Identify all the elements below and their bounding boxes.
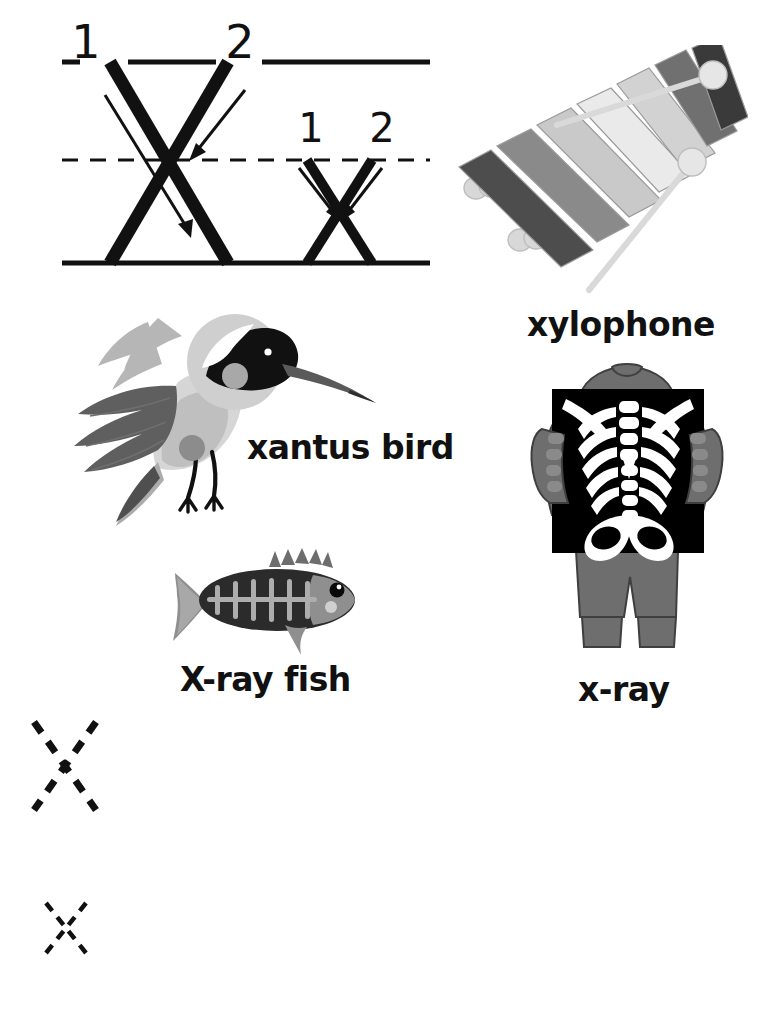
practice-row-1[interactable] — [16, 722, 752, 810]
fish-spine — [207, 597, 317, 602]
practice-row-2[interactable] — [16, 863, 752, 953]
letter-x-stroke-order-guide: 1 2 1 2 — [0, 0, 440, 290]
row-1-traceable-letter-X — [34, 722, 96, 810]
x-ray-illustration — [520, 355, 735, 660]
bird-leg-joint — [179, 435, 205, 461]
guide-uppercase-stroke-1-number: 1 — [71, 15, 100, 69]
picture-label-xylophone: xylophone — [527, 305, 715, 344]
worksheet-page: 1 2 1 2 — [0, 0, 761, 1022]
xantus-bird-illustration — [30, 290, 420, 540]
guide-lowercase-x-glyph — [307, 160, 372, 263]
bird-beak-tip — [348, 390, 376, 403]
child-leg-left — [582, 617, 622, 647]
fish-lower-fin — [285, 625, 307, 655]
guide-uppercase-stroke-2-number: 2 — [225, 15, 254, 69]
handwriting-practice-area — [0, 700, 761, 990]
guide-lowercase-stroke-1-number: 1 — [298, 105, 323, 151]
bird-eye — [264, 348, 271, 355]
x-ray-fish-illustration — [165, 545, 385, 660]
bird-feet — [180, 496, 222, 512]
fish-eye-highlight — [337, 585, 342, 590]
fish-dorsal-fin — [269, 548, 333, 568]
row-2-traceable-letter-x — [46, 903, 86, 953]
fish-cheek-dot — [325, 601, 337, 613]
guide-lowercase-stroke-2-number: 2 — [369, 105, 394, 151]
mallet-head-upper — [699, 61, 727, 89]
bird-tail — [116, 462, 164, 526]
guide-uppercase-x-glyph — [110, 62, 228, 263]
xylophone-illustration — [443, 45, 748, 315]
fish-eye — [330, 583, 345, 598]
bird-cheek-dot — [222, 363, 248, 389]
picture-label-x-ray-fish: X-ray fish — [180, 660, 351, 699]
child-leg-right — [638, 617, 676, 647]
bird-back-wing — [98, 318, 182, 390]
child-shorts — [576, 551, 678, 617]
mallet-head-lower — [678, 148, 706, 176]
picture-label-xantus-bird: xantus bird — [247, 428, 454, 467]
